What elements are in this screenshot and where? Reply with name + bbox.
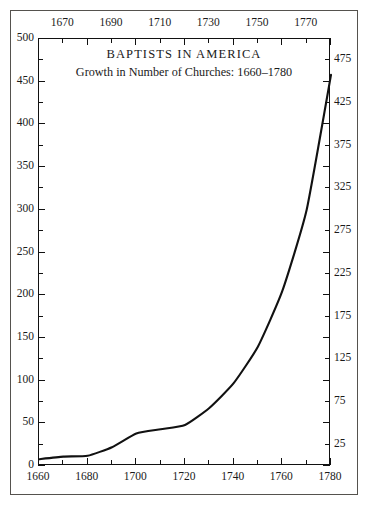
x-axis-label-top-1770: 1770 bbox=[294, 17, 317, 29]
y-tick-right-50 bbox=[323, 422, 330, 423]
x-tick-bottom-1730 bbox=[208, 460, 209, 465]
y-tick-left-75 bbox=[38, 401, 43, 402]
x-tick-bottom-1780 bbox=[330, 458, 331, 465]
y-tick-left-125 bbox=[38, 358, 43, 359]
y-axis-label-right-375: 375 bbox=[334, 139, 368, 151]
y-tick-left-375 bbox=[38, 145, 43, 146]
y-axis-label-right-125: 125 bbox=[334, 352, 368, 364]
y-axis-label-right-425: 425 bbox=[334, 96, 368, 108]
x-tick-bottom-1680 bbox=[87, 458, 88, 465]
y-tick-left-450 bbox=[38, 81, 45, 82]
y-tick-right-250 bbox=[323, 252, 330, 253]
x-tick-bottom-1690 bbox=[111, 460, 112, 465]
x-tick-top-1770 bbox=[306, 38, 307, 43]
x-axis-label-top-1690: 1690 bbox=[100, 17, 123, 29]
y-tick-right-25 bbox=[325, 444, 330, 445]
y-axis-label-right-25: 25 bbox=[334, 438, 368, 450]
x-tick-top-1690 bbox=[111, 38, 112, 43]
x-tick-top-1660 bbox=[38, 38, 39, 45]
y-axis-label-left-300: 300 bbox=[0, 203, 34, 215]
x-tick-bottom-1760 bbox=[281, 458, 282, 465]
y-axis-label-left-150: 150 bbox=[0, 331, 34, 343]
y-tick-left-250 bbox=[38, 252, 45, 253]
y-tick-left-425 bbox=[38, 102, 43, 103]
y-tick-right-125 bbox=[325, 358, 330, 359]
x-axis-label-bottom-1740: 1740 bbox=[221, 471, 244, 483]
y-tick-left-175 bbox=[38, 316, 43, 317]
plot-area bbox=[38, 38, 330, 465]
chart-figure: BAPTISTS IN AMERICA Growth in Number of … bbox=[0, 0, 370, 507]
x-axis-label-bottom-1720: 1720 bbox=[173, 471, 196, 483]
y-tick-right-200 bbox=[323, 294, 330, 295]
x-axis-label-top-1670: 1670 bbox=[51, 17, 74, 29]
y-axis-label-left-450: 450 bbox=[0, 75, 34, 87]
y-tick-right-150 bbox=[323, 337, 330, 338]
y-axis-label-left-400: 400 bbox=[0, 117, 34, 129]
y-tick-left-275 bbox=[38, 230, 43, 231]
x-tick-top-1700 bbox=[135, 38, 136, 45]
x-axis-label-bottom-1760: 1760 bbox=[270, 471, 293, 483]
y-tick-right-350 bbox=[323, 166, 330, 167]
y-tick-left-300 bbox=[38, 209, 45, 210]
y-tick-right-225 bbox=[325, 273, 330, 274]
y-tick-left-200 bbox=[38, 294, 45, 295]
x-tick-bottom-1710 bbox=[160, 460, 161, 465]
x-axis-label-top-1750: 1750 bbox=[246, 17, 269, 29]
x-tick-bottom-1720 bbox=[184, 458, 185, 465]
y-tick-left-0 bbox=[38, 465, 45, 466]
x-tick-top-1730 bbox=[208, 38, 209, 43]
x-tick-top-1670 bbox=[62, 38, 63, 43]
y-tick-left-100 bbox=[38, 380, 45, 381]
y-axis-label-left-0: 0 bbox=[0, 459, 34, 471]
y-tick-left-150 bbox=[38, 337, 45, 338]
x-tick-bottom-1660 bbox=[38, 458, 39, 465]
y-tick-right-450 bbox=[323, 81, 330, 82]
y-tick-right-400 bbox=[323, 123, 330, 124]
x-tick-bottom-1670 bbox=[62, 460, 63, 465]
y-axis-label-right-325: 325 bbox=[334, 181, 368, 193]
y-tick-right-175 bbox=[325, 316, 330, 317]
y-tick-left-225 bbox=[38, 273, 43, 274]
y-axis-label-right-475: 475 bbox=[334, 53, 368, 65]
x-axis-label-bottom-1700: 1700 bbox=[124, 471, 147, 483]
x-tick-top-1780 bbox=[330, 38, 331, 45]
x-tick-top-1710 bbox=[160, 38, 161, 43]
x-tick-bottom-1750 bbox=[257, 460, 258, 465]
y-axis-label-right-275: 275 bbox=[334, 224, 368, 236]
y-tick-right-75 bbox=[325, 401, 330, 402]
y-axis-label-left-50: 50 bbox=[0, 416, 34, 428]
y-tick-left-500 bbox=[38, 38, 45, 39]
x-tick-top-1760 bbox=[281, 38, 282, 45]
x-tick-top-1750 bbox=[257, 38, 258, 43]
x-tick-bottom-1740 bbox=[233, 458, 234, 465]
y-tick-right-475 bbox=[325, 59, 330, 60]
x-axis-label-bottom-1780: 1780 bbox=[319, 471, 342, 483]
x-axis-label-top-1710: 1710 bbox=[148, 17, 171, 29]
y-tick-right-375 bbox=[325, 145, 330, 146]
y-tick-right-325 bbox=[325, 187, 330, 188]
x-axis-label-bottom-1680: 1680 bbox=[75, 471, 98, 483]
y-axis-label-left-200: 200 bbox=[0, 288, 34, 300]
x-axis-label-bottom-1660: 1660 bbox=[27, 471, 50, 483]
y-axis-label-right-225: 225 bbox=[334, 267, 368, 279]
x-tick-top-1740 bbox=[233, 38, 234, 45]
y-tick-left-400 bbox=[38, 123, 45, 124]
series-line-number-of-churches bbox=[39, 39, 331, 466]
y-tick-left-25 bbox=[38, 444, 43, 445]
y-tick-right-275 bbox=[325, 230, 330, 231]
y-tick-right-100 bbox=[323, 380, 330, 381]
y-axis-label-left-500: 500 bbox=[0, 32, 34, 44]
y-tick-left-50 bbox=[38, 422, 45, 423]
y-axis-label-right-75: 75 bbox=[334, 395, 368, 407]
y-tick-left-350 bbox=[38, 166, 45, 167]
x-tick-bottom-1700 bbox=[135, 458, 136, 465]
x-tick-bottom-1770 bbox=[306, 460, 307, 465]
y-axis-label-left-250: 250 bbox=[0, 246, 34, 258]
y-tick-right-425 bbox=[325, 102, 330, 103]
x-tick-top-1680 bbox=[87, 38, 88, 45]
x-tick-top-1720 bbox=[184, 38, 185, 45]
y-tick-right-300 bbox=[323, 209, 330, 210]
y-axis-label-left-350: 350 bbox=[0, 160, 34, 172]
y-axis-label-right-175: 175 bbox=[334, 310, 368, 322]
x-axis-label-top-1730: 1730 bbox=[197, 17, 220, 29]
